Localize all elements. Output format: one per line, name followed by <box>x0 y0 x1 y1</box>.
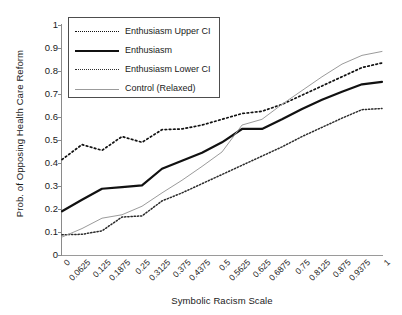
legend-key-control <box>74 85 120 93</box>
legend: Enthusiasm Upper CI Enthusiasm Enthusias… <box>68 17 220 98</box>
legend-key-enthusiasm <box>74 47 120 55</box>
legend-key-upper-ci <box>74 28 120 36</box>
legend-label: Enthusiasm Lower CI <box>125 65 211 74</box>
series-line-2 <box>62 108 382 234</box>
legend-item[interactable]: Enthusiasm <box>74 41 214 60</box>
legend-label: Enthusiasm Upper CI <box>125 27 211 36</box>
legend-item[interactable]: Control (Relaxed) <box>74 79 214 98</box>
legend-key-lower-ci <box>74 66 120 74</box>
legend-label: Enthusiasm <box>125 46 172 55</box>
legend-item[interactable]: Enthusiasm Lower CI <box>74 60 214 79</box>
legend-label: Control (Relaxed) <box>125 84 196 93</box>
chart-figure: Prob. of Opposing Health Care Reform Sym… <box>0 0 402 315</box>
legend-item[interactable]: Enthusiasm Upper CI <box>74 22 214 41</box>
series-line-1 <box>62 82 382 211</box>
